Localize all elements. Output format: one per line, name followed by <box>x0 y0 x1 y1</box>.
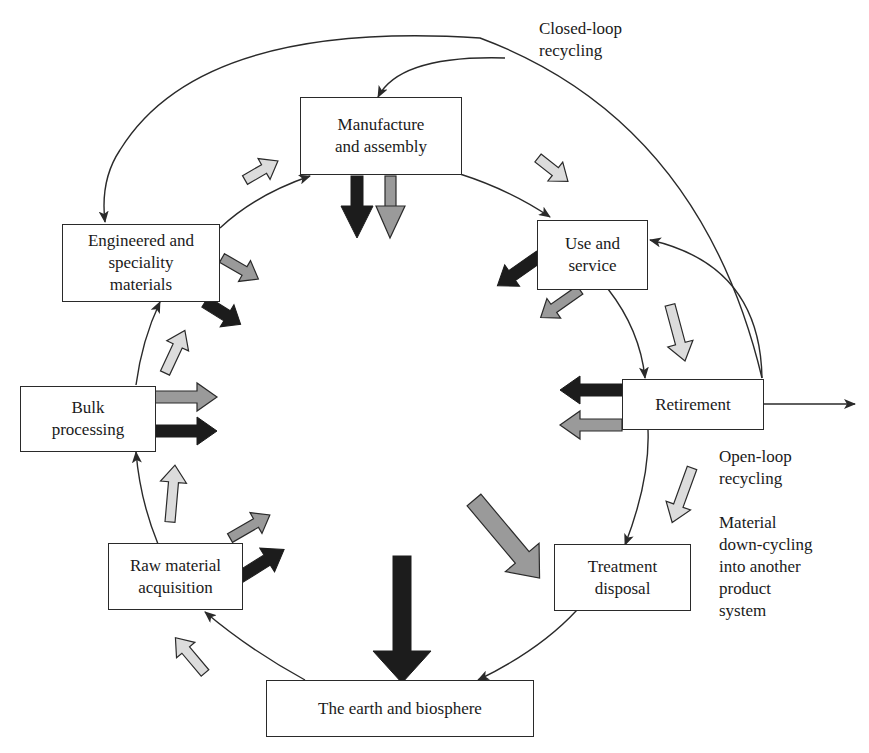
flow-retirement-to-treatment <box>625 430 648 545</box>
node-bulk-processing: Bulk processing <box>20 386 156 452</box>
flow-manufacture-to-use <box>460 174 550 217</box>
label-material-down-cycling: Material down-cycling into another produ… <box>719 512 812 622</box>
flow-engineered-to-manufacture <box>220 176 310 228</box>
node-engineered-and-speciality-materials: Engineered and speciality materials <box>62 224 220 302</box>
flow-use-to-retirement <box>608 289 645 378</box>
light-arrow-3 <box>657 302 697 365</box>
label-open-loop-recycling: Open-loop recycling <box>719 446 792 490</box>
node-raw-material-acquisition: Raw material acquisition <box>108 543 243 610</box>
light-arrow-4 <box>660 464 704 527</box>
flow-raw-to-bulk <box>136 452 158 544</box>
node-label: Retirement <box>655 394 731 416</box>
flow-treatment-to-earth <box>478 610 577 680</box>
label-closed-loop-recycling: Closed-loop recycling <box>539 18 622 62</box>
node-label: The earth and biosphere <box>318 698 482 720</box>
light-arrow-1 <box>239 151 284 191</box>
node-retirement: Retirement <box>622 379 764 430</box>
light-arrow-7 <box>166 630 214 681</box>
node-label: Engineered and speciality materials <box>88 230 194 296</box>
node-manufacture-and-assembly: Manufacture and assembly <box>300 97 462 175</box>
node-label: Treatment disposal <box>588 556 657 600</box>
node-treatment-disposal: Treatment disposal <box>554 544 691 611</box>
flow-bulk-to-engineered <box>136 302 160 385</box>
light-arrow-6 <box>157 464 188 523</box>
flow-closed-loop-to-engineered <box>104 36 762 378</box>
node-use-and-service: Use and service <box>537 220 648 290</box>
node-label: Raw material acquisition <box>130 555 221 599</box>
node-label: Manufacture and assembly <box>335 114 427 158</box>
node-label: Bulk processing <box>52 397 125 441</box>
node-label: Use and service <box>565 233 620 277</box>
flow-earth-to-raw <box>205 612 305 680</box>
light-arrow-2 <box>531 149 576 191</box>
flow-closed-loop-to-manufacture <box>378 58 505 97</box>
light-arrow-5 <box>154 325 196 378</box>
node-earth-and-biosphere: The earth and biosphere <box>266 680 534 737</box>
